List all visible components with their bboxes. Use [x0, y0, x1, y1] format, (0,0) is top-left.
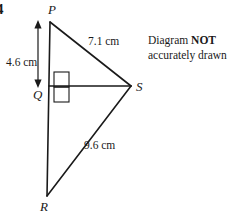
not-accurately-drawn-note: Diagram NOT accurately drawn	[148, 33, 227, 63]
vertex-label-q: Q	[33, 88, 42, 101]
right-angle-marker-upper	[54, 72, 69, 87]
vertex-label-r: R	[40, 200, 48, 213]
note-line2: accurately drawn	[148, 49, 227, 61]
vertex-label-s: S	[136, 80, 143, 93]
measurement-label-ps: 7.1 cm	[88, 36, 119, 48]
note-line1-emphasis: NOT	[191, 34, 216, 46]
note-line1-prefix: Diagram	[148, 34, 191, 46]
segment-pr	[47, 22, 50, 196]
diagram-canvas: 4 P Q R S 4.6 cm 7.1 cm 9.6 cm Diagram N…	[0, 0, 248, 223]
right-angle-marker-lower	[54, 87, 69, 102]
segment-ps	[50, 22, 131, 86]
measurement-label-pq: 4.6 cm	[6, 57, 37, 69]
dimension-arrowhead-top	[34, 20, 41, 29]
vertex-label-p: P	[48, 3, 56, 16]
measurement-label-sr: 9.6 cm	[84, 140, 115, 152]
